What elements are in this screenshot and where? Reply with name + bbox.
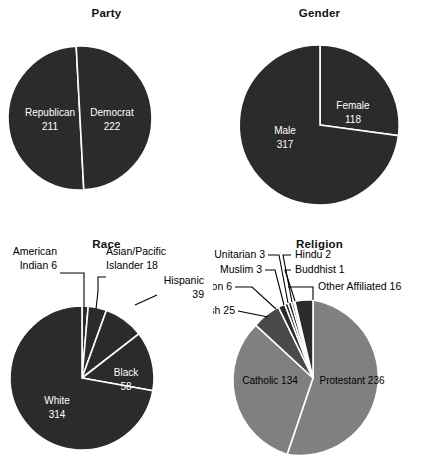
- panel-religion: Religion: [213, 229, 426, 458]
- label-black-value: 58: [120, 381, 132, 392]
- label-female-value: 118: [345, 114, 361, 125]
- label-jewish: Jewish 25: [213, 304, 235, 316]
- leader-unitarian: [268, 255, 288, 303]
- label-male-value: 317: [277, 139, 294, 150]
- pie-chart-figure: Party Republican 211 Democrat 222 Gender: [0, 0, 426, 458]
- panel-race: Race White 314 Black 58: [0, 229, 213, 458]
- label-male-name: Male: [274, 125, 296, 136]
- leader-jewish: [238, 311, 268, 317]
- race-slices: [10, 306, 154, 450]
- leader-muslim: [265, 270, 284, 305]
- label-american-indian-line2: Indian 6: [20, 259, 58, 271]
- gender-slices: [239, 45, 399, 205]
- label-protestant: Protestant 236: [319, 375, 384, 386]
- panel-party: Party Republican 211 Democrat 222: [0, 0, 213, 229]
- label-republican-value: 211: [42, 121, 58, 132]
- label-asian-pacific-line1: Asian/Pacific: [106, 245, 166, 257]
- label-white-name: White: [44, 395, 70, 406]
- label-republican-name: Republican: [25, 107, 75, 118]
- label-white-value: 314: [49, 409, 66, 420]
- slice-republican: [8, 46, 84, 190]
- label-buddhist: Buddhist 1: [295, 263, 345, 275]
- label-female-name: Female: [336, 100, 370, 111]
- label-democrat-name: Democrat: [90, 107, 134, 118]
- label-hispanic-line2: 39: [192, 288, 204, 300]
- label-mormon: Mormon 6: [213, 280, 232, 292]
- party-slices: [8, 46, 152, 190]
- label-other-affiliated: Other Affiliated 16: [318, 280, 401, 292]
- label-american-indian-line1: American: [13, 245, 58, 257]
- label-muslim: Muslim 3: [220, 263, 262, 275]
- pie-chart-party: Republican 211 Democrat 222: [0, 0, 213, 229]
- pie-chart-race: White 314 Black 58 American Indian 6 Asi…: [0, 229, 213, 458]
- label-black-name: Black: [114, 367, 139, 378]
- label-asian-pacific-line2: Islander 18: [106, 259, 158, 271]
- label-hindu: Hindu 2: [295, 248, 331, 260]
- label-catholic: Catholic 134: [242, 375, 298, 386]
- leader-mormon: [235, 287, 276, 309]
- slice-democrat: [76, 46, 152, 190]
- label-unitarian: Unitarian 3: [214, 248, 265, 260]
- leader-hispanic: [135, 295, 157, 305]
- leader-american-indian: [60, 273, 84, 307]
- label-hispanic-line1: Hispanic: [164, 274, 204, 286]
- panel-gender: Gender Female 118 Male 317: [213, 0, 426, 229]
- pie-chart-religion: Protestant 236 Catholic 134 Jewish 25 Mo…: [213, 229, 426, 458]
- leader-asian-pacific: [96, 277, 106, 309]
- pie-chart-gender: Female 118 Male 317: [213, 0, 426, 229]
- label-democrat-value: 222: [104, 121, 121, 132]
